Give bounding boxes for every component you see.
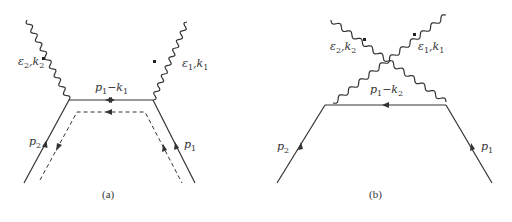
arrow-icon xyxy=(105,109,112,115)
label-photon-eps1-k1-a: ε1,k1 xyxy=(182,57,208,72)
feynman-diagrams-canvas xyxy=(0,0,512,222)
arrow-icon xyxy=(470,143,475,151)
label-fermion-p2-b: p2 xyxy=(277,140,289,155)
arrow-icon xyxy=(382,102,389,108)
arrow-icon xyxy=(298,142,303,150)
caption-a: (a) xyxy=(102,188,114,200)
caption-b: (b) xyxy=(369,188,382,200)
dot-icon xyxy=(413,33,416,36)
label-fermion-p1-a: p1 xyxy=(184,138,196,153)
dot-icon xyxy=(363,38,366,41)
label-propagator-a: p1−k1 xyxy=(95,81,128,96)
diagram-b xyxy=(277,15,492,183)
label-propagator-b: p1−k2 xyxy=(370,83,403,98)
label-fermion-p2-a: p2 xyxy=(29,135,41,150)
label-photon-eps1-k1-b: ε1,k1 xyxy=(418,40,444,55)
arrow-icon xyxy=(105,97,112,103)
dot-icon xyxy=(153,60,156,63)
diagram-a xyxy=(24,20,195,183)
arrow-icon xyxy=(56,143,62,151)
label-photon-eps2-k2-b: ε2,k2 xyxy=(330,40,356,55)
label-fermion-p1-b: p1 xyxy=(481,140,493,155)
dashed-flow-line xyxy=(40,112,182,183)
label-photon-eps2-k2-a: ε2,k2 xyxy=(18,55,44,70)
